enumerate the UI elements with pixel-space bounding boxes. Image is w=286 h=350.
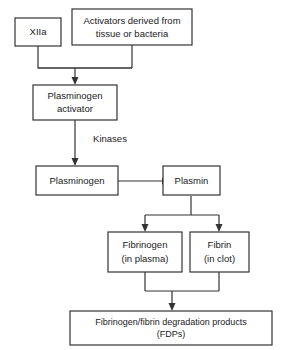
arrowhead-into-fdps xyxy=(169,303,176,311)
node-fibrin: Fibrin (in clot) xyxy=(190,232,249,272)
node-fibrinogen: Fibrinogen (in plasma) xyxy=(108,232,182,272)
node-fdps: Fibrinogen/fibrin degradation products (… xyxy=(70,311,272,345)
node-xiia-label: XIIa xyxy=(30,26,48,37)
arrowhead-into-plasminogen-activator xyxy=(72,77,79,85)
node-fibrinogen-label-line1: Fibrinogen xyxy=(123,239,168,250)
connector-xiia-to-merge xyxy=(38,46,132,68)
node-fdps-label-line1: Fibrinogen/fibrin degradation products xyxy=(95,317,247,327)
node-plasminogen-label: Plasminogen xyxy=(50,175,105,186)
arrowhead-into-fibrinogen xyxy=(142,224,149,232)
node-plasminogen-activator: Plasminogen activator xyxy=(33,85,117,120)
node-xiia: XIIa xyxy=(15,18,61,46)
node-fibrin-label-line2: (in clot) xyxy=(204,253,235,264)
node-plasminogen-activator-label-line2: activator xyxy=(57,103,93,114)
node-activators-label-line1: Activators derived from xyxy=(83,15,180,26)
node-fibrinogen-label-line2: (in plasma) xyxy=(122,253,169,264)
fibrinolysis-diagram: XIIa Activators derived from tissue or b… xyxy=(0,0,286,350)
arrowhead-into-fibrin xyxy=(216,224,223,232)
node-activators: Activators derived from tissue or bacter… xyxy=(72,9,192,45)
node-fdps-label-line2: (FDPs) xyxy=(157,329,186,339)
arrowhead-into-plasminogen xyxy=(72,158,79,166)
edge-label-kinases: Kinases xyxy=(93,133,127,144)
node-plasmin-label: Plasmin xyxy=(175,175,209,186)
node-activators-label-line2: tissue or bacteria xyxy=(96,28,169,39)
flowchart-canvas: XIIa Activators derived from tissue or b… xyxy=(0,0,286,350)
node-plasminogen: Plasminogen xyxy=(36,166,118,195)
node-fibrin-label-line1: Fibrin xyxy=(208,239,232,250)
node-plasminogen-activator-label-line1: Plasminogen xyxy=(48,90,103,101)
node-plasmin: Plasmin xyxy=(163,166,220,195)
